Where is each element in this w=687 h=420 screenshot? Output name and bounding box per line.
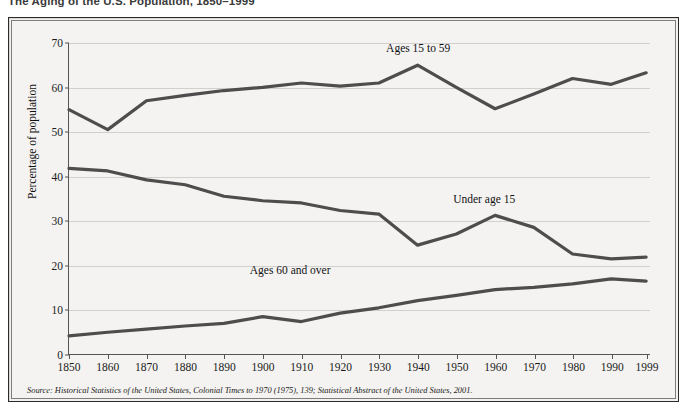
x-axis-tick-label: 1880 bbox=[174, 361, 197, 373]
series-line bbox=[69, 168, 646, 259]
x-axis-tick-mark bbox=[341, 354, 342, 359]
x-axis-tick-mark bbox=[69, 354, 70, 359]
x-axis-tick-label: 1999 bbox=[636, 361, 659, 373]
x-axis-tick-mark bbox=[457, 354, 458, 359]
panel-inner-border: Percentage of population 010203040506070… bbox=[11, 20, 676, 399]
x-axis-tick-label: 1960 bbox=[484, 361, 507, 373]
x-axis-tick-mark bbox=[418, 354, 419, 359]
plot-area: 010203040506070 185018601870188018901900… bbox=[68, 43, 650, 355]
figure-panel: Percentage of population 010203040506070… bbox=[8, 17, 679, 402]
series-label: Ages 60 and over bbox=[250, 264, 331, 276]
x-axis-tick-label: 1890 bbox=[213, 361, 236, 373]
x-axis-tick-label: 1950 bbox=[446, 361, 469, 373]
x-axis-tick-label: 1930 bbox=[368, 361, 391, 373]
series-label: Ages 15 to 59 bbox=[386, 42, 450, 54]
x-axis-tick-label: 1920 bbox=[329, 361, 352, 373]
x-axis-tick-label: 1910 bbox=[290, 361, 313, 373]
y-axis-tick-label: 60 bbox=[52, 82, 64, 94]
x-axis-tick-mark bbox=[302, 354, 303, 359]
x-axis-tick-mark bbox=[108, 354, 109, 359]
y-axis-tick-label: 40 bbox=[52, 171, 64, 183]
series-lines bbox=[69, 43, 650, 354]
x-axis-tick-mark bbox=[224, 354, 225, 359]
x-axis-tick-mark bbox=[647, 354, 648, 359]
x-axis-tick-label: 1870 bbox=[135, 361, 158, 373]
x-axis-tick-mark bbox=[147, 354, 148, 359]
y-axis-tick-label: 20 bbox=[52, 260, 64, 272]
x-axis-tick-label: 1980 bbox=[562, 361, 585, 373]
x-axis-tick-label: 1850 bbox=[58, 361, 81, 373]
x-axis-tick-label: 1860 bbox=[96, 361, 119, 373]
x-axis-tick-mark bbox=[573, 354, 574, 359]
series-label: Under age 15 bbox=[453, 193, 515, 205]
y-axis-tick-label: 0 bbox=[57, 349, 63, 361]
series-line bbox=[69, 65, 646, 129]
y-axis-tick-label: 70 bbox=[52, 37, 64, 49]
y-axis-title: Percentage of population bbox=[26, 84, 38, 199]
x-axis-tick-label: 1940 bbox=[407, 361, 430, 373]
y-axis-tick-label: 30 bbox=[52, 215, 64, 227]
x-axis-tick-mark bbox=[612, 354, 613, 359]
x-axis-tick-label: 1970 bbox=[523, 361, 546, 373]
x-axis-tick-label: 1900 bbox=[252, 361, 275, 373]
x-axis-tick-mark bbox=[379, 354, 380, 359]
x-axis-tick-label: 1990 bbox=[601, 361, 624, 373]
source-note: Source: Historical Statistics of the Uni… bbox=[27, 386, 472, 395]
x-axis-tick-mark bbox=[263, 354, 264, 359]
figure-title: The Aging of the U.S. Population, 1850–1… bbox=[8, 0, 255, 8]
series-line bbox=[69, 279, 646, 336]
x-axis-tick-mark bbox=[535, 354, 536, 359]
y-axis-tick-label: 50 bbox=[52, 126, 64, 138]
x-axis-tick-mark bbox=[185, 354, 186, 359]
x-axis-tick-mark bbox=[496, 354, 497, 359]
y-axis-tick-label: 10 bbox=[52, 304, 64, 316]
